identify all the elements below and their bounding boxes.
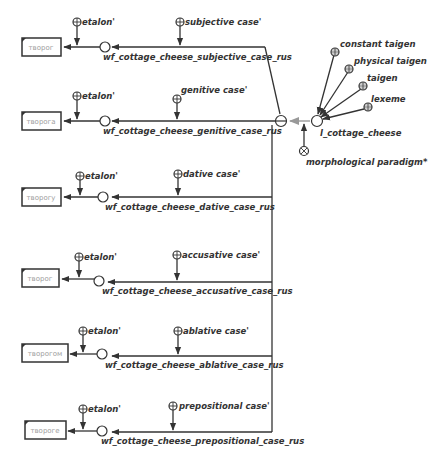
case-label: genitive case' [181,85,247,95]
relation-label: wf_cottage_cheese_ablative_case_rus [105,360,284,370]
circle-plus-icon[interactable] [76,172,84,180]
branch-ablative: творогом etalon' ablative case' wf_cotta… [22,326,284,370]
branch-genitive: творога etalon' genitive case' wf_cottag… [22,85,282,136]
etalon-label: etalon' [85,171,118,181]
wordform-text: творогом [28,350,62,358]
etalon-label: etalon' [82,17,115,27]
wordform-node[interactable] [97,349,107,359]
etalon-label: etalon' [88,404,121,414]
case-label: dative case' [183,169,240,179]
wordform-node[interactable] [97,426,107,436]
wordform-text: твороге [30,427,59,435]
relation-label: wf_cottage_cheese_dative_case_rus [105,202,275,212]
junction-node[interactable] [276,116,287,127]
circle-grid-icon[interactable] [331,48,339,56]
circle-plus-icon[interactable] [173,95,181,103]
case-label: ablative case' [183,326,249,336]
wordform-node[interactable] [100,116,110,126]
circle-plus-icon[interactable] [174,327,182,335]
lexeme-node-label: l_cottage_cheese [320,128,402,138]
etalon-label: etalon' [82,91,115,101]
case-label: prepositional case' [178,401,270,411]
circle-plus-icon[interactable] [73,18,81,26]
circle-grid-icon[interactable] [359,82,367,90]
wordform-node[interactable] [100,42,110,52]
wordform-text: творог [29,44,54,52]
circle-grid-icon[interactable] [345,65,353,73]
relation-label: wf_cottage_cheese_subjective_case_rus [103,52,292,62]
lexeme-node[interactable] [312,116,323,127]
branch-subjective: творог etalon' subjective case' wf_cotta… [22,17,292,62]
branch-accusative: творог etalon' accusative case' wf_cotta… [22,250,293,296]
circle-x-icon[interactable] [300,147,309,156]
circle-plus-icon[interactable] [169,402,177,410]
circle-plus-icon[interactable] [73,92,81,100]
circle-grid-icon[interactable] [364,103,372,111]
relation-label: wf_cottage_cheese_prepositional_case_rus [101,436,304,446]
circle-plus-icon[interactable] [75,253,83,261]
wordform-node[interactable] [98,192,108,202]
branch-dative: творогу etalon' dative case' wf_cottage_… [22,169,275,212]
etalon-label: etalon' [88,326,121,336]
trunk [265,47,310,432]
taigen-label: taigen [367,73,398,83]
morphological-paradigm-label: morphological paradigm* [306,157,428,167]
relation-label: wf_cottage_cheese_genitive_case_rus [103,126,282,136]
relation-label: wf_cottage_cheese_accusative_case_rus [102,286,293,296]
circle-plus-icon[interactable] [79,327,87,335]
wordform-text: творога [26,118,55,126]
lexeme-edge [323,109,364,119]
wordform-text: творог [28,275,53,283]
wordform-node[interactable] [94,276,104,286]
lexeme-node-group: l_cottage_cheese constant taigen physica… [300,39,428,167]
physical-taigen-label: physical taigen [353,56,427,66]
circle-plus-icon[interactable] [176,18,184,26]
taigen-edge [321,89,361,117]
circle-plus-icon[interactable] [173,251,181,259]
etalon-label: etalon' [84,252,117,262]
lexeme-label: lexeme [371,94,406,104]
circle-plus-icon[interactable] [79,405,87,413]
circle-plus-icon[interactable] [174,170,182,178]
wordform-text: творогу [26,194,55,202]
branch-prepositional: твороге etalon' prepositional case' wf_c… [25,401,304,446]
case-label: accusative case' [182,250,260,260]
case-label: subjective case' [185,17,261,27]
constant-taigen-label: constant taigen [340,39,415,49]
semantic-network-diagram: l_cottage_cheese constant taigen physica… [0,0,431,461]
